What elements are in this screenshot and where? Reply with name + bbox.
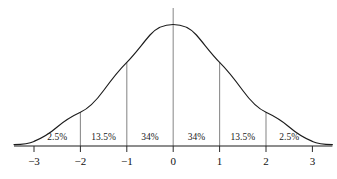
x-tick-label-neg3: −3: [28, 155, 40, 167]
x-tick-label-neg2: −2: [75, 155, 87, 167]
normal-distribution-chart: 2.5% 13.5% 34% 34% 13.5% 2.5% −3 −2 −1 0…: [0, 0, 337, 179]
region-label-neg3-neg2: 2.5%: [47, 132, 67, 142]
chart-background: [0, 0, 337, 179]
x-tick-label-0: 0: [170, 155, 176, 167]
region-label-pos2-pos3: 2.5%: [279, 132, 299, 142]
x-tick-label-neg1: −1: [121, 155, 133, 167]
region-label-pos1-pos2: 13.5%: [231, 132, 256, 142]
x-tick-label-pos3: 3: [310, 155, 316, 167]
region-label-0-pos1: 34%: [188, 132, 206, 142]
region-label-neg2-neg1: 13.5%: [91, 132, 116, 142]
region-label-neg1-0: 34%: [141, 132, 159, 142]
x-tick-label-pos1: 1: [217, 155, 223, 167]
x-tick-label-pos2: 2: [263, 155, 269, 167]
